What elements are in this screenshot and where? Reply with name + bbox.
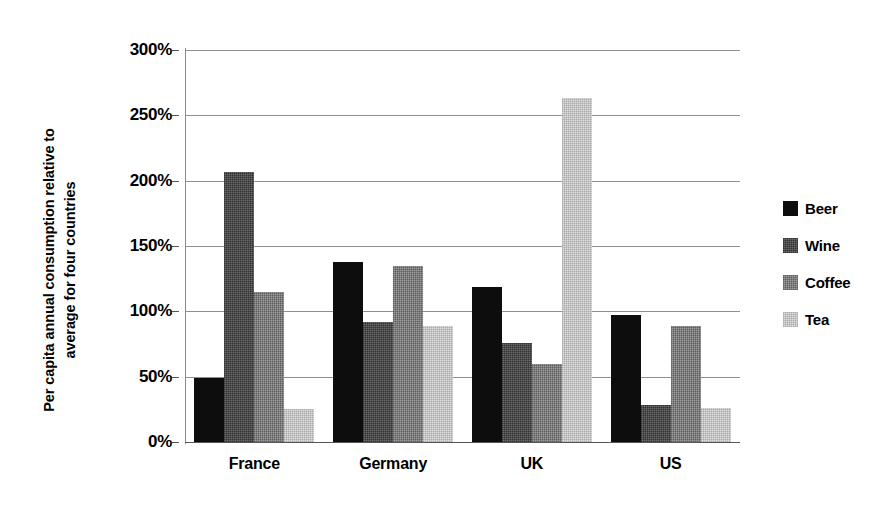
- legend-label-beer: Beer: [805, 200, 838, 217]
- x-label-germany: Germany: [359, 455, 427, 473]
- bar-us-beer: [611, 315, 641, 442]
- legend-label-tea: Tea: [805, 311, 829, 328]
- bar-germany-beer: [333, 262, 363, 442]
- y-tick-label-150: 150%: [130, 236, 172, 256]
- legend-label-coffee: Coffee: [805, 274, 850, 291]
- bar-germany-wine: [363, 322, 393, 442]
- legend-item-wine[interactable]: Wine: [783, 227, 888, 264]
- bar-uk-wine: [502, 343, 532, 442]
- bar-france-coffee: [254, 292, 284, 442]
- y-axis-title-line-1: Per capita annual consumption relative t…: [39, 128, 60, 412]
- y-tick-label-250: 250%: [130, 105, 172, 125]
- legend-swatch-coffee-icon: [783, 275, 798, 290]
- y-axis-tick-labels: 0%50%100%150%200%250%300%: [96, 0, 180, 515]
- bar-chart: Per capita annual consumption relative t…: [0, 0, 890, 515]
- legend-item-tea[interactable]: Tea: [783, 301, 888, 338]
- y-tick-label-0: 0%: [148, 432, 172, 452]
- bar-france-beer: [194, 378, 224, 442]
- x-label-uk: UK: [521, 455, 544, 473]
- y-tick-mark-150: [172, 246, 179, 247]
- bar-france-tea: [284, 409, 314, 442]
- y-tick-mark-300: [172, 50, 179, 51]
- bar-france-wine: [224, 172, 254, 442]
- legend-swatch-tea-icon: [783, 312, 798, 327]
- legend: BeerWineCoffeeTea: [783, 190, 888, 338]
- y-tick-mark-200: [172, 181, 179, 182]
- y-tick-mark-100: [172, 311, 179, 312]
- bar-uk-coffee: [532, 364, 562, 442]
- y-tick-mark-50: [172, 377, 179, 378]
- y-tick-mark-0: [172, 442, 179, 443]
- gridline-0: [185, 442, 740, 443]
- bar-us-wine: [641, 405, 671, 442]
- bar-us-tea: [701, 408, 731, 442]
- x-label-france: France: [229, 455, 280, 473]
- y-tick-label-50: 50%: [139, 367, 172, 387]
- x-label-us: US: [660, 455, 682, 473]
- bar-germany-tea: [423, 326, 453, 442]
- y-tick-mark-250: [172, 115, 179, 116]
- bar-uk-tea: [562, 98, 592, 442]
- legend-item-beer[interactable]: Beer: [783, 190, 888, 227]
- y-tick-label-200: 200%: [130, 171, 172, 191]
- legend-swatch-beer-icon: [783, 201, 798, 216]
- legend-swatch-wine-icon: [783, 238, 798, 253]
- bars-layer: [185, 50, 740, 442]
- plot-area: [185, 50, 740, 442]
- y-axis-title-line-2: average for four countries: [60, 181, 81, 358]
- x-axis-category-labels: FranceGermanyUKUS: [185, 455, 740, 485]
- bar-germany-coffee: [393, 266, 423, 442]
- y-tick-label-300: 300%: [130, 40, 172, 60]
- legend-label-wine: Wine: [805, 237, 840, 254]
- legend-item-coffee[interactable]: Coffee: [783, 264, 888, 301]
- y-axis-title: Per capita annual consumption relative t…: [30, 60, 90, 480]
- bar-us-coffee: [671, 326, 701, 442]
- bar-uk-beer: [472, 287, 502, 442]
- y-tick-label-100: 100%: [130, 301, 172, 321]
